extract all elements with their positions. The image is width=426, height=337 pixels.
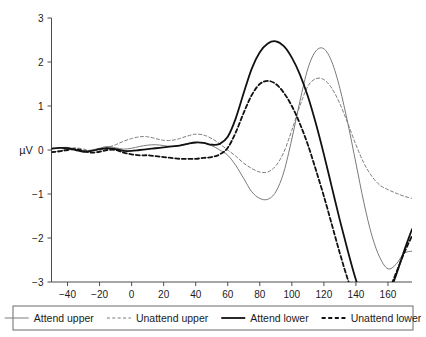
x-tick-label: −20: [91, 289, 108, 300]
y-axis-title: µV: [19, 144, 33, 156]
series-line-attend-lower: [52, 41, 413, 313]
series-line-unattend-upper: [52, 78, 413, 198]
x-tick-label: 120: [316, 289, 333, 300]
legend-label: Unattend lower: [351, 312, 422, 324]
y-tick-label: 1: [38, 101, 44, 112]
erp-waveform-figure: −3−2−10123−40−20020406080100120140160µVA…: [0, 0, 426, 337]
chart-canvas: −3−2−10123−40−20020406080100120140160µVA…: [0, 0, 426, 337]
y-tick-label: 3: [38, 13, 44, 24]
x-tick-label: 40: [190, 289, 202, 300]
y-tick-label: 2: [38, 57, 44, 68]
y-tick-label: −3: [32, 277, 44, 288]
y-tick-label: −1: [32, 189, 44, 200]
series-line-attend-upper: [52, 48, 413, 269]
x-tick-label: 160: [380, 289, 397, 300]
x-tick-label: 140: [348, 289, 365, 300]
x-tick-label: 0: [129, 289, 135, 300]
y-tick-label: −2: [32, 233, 44, 244]
x-tick-label: 20: [158, 289, 170, 300]
legend-label: Unattend upper: [136, 312, 209, 324]
x-tick-label: 80: [254, 289, 266, 300]
x-tick-label: −40: [59, 289, 76, 300]
x-tick-label: 60: [222, 289, 234, 300]
series-group: [52, 41, 413, 317]
legend-label: Attend upper: [34, 312, 95, 324]
legend-label: Attend lower: [250, 312, 309, 324]
y-tick-label: 0: [38, 145, 44, 156]
x-tick-label: 100: [283, 289, 300, 300]
